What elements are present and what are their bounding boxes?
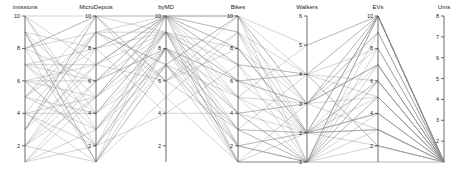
tick-label: 2 <box>17 143 20 149</box>
parallel-coordinates-chart: ímissions246810MicroDepots246810byMD2468… <box>0 0 467 173</box>
tick-label: 10 <box>367 13 373 19</box>
tick-label: 4 <box>299 71 302 77</box>
data-line <box>25 97 444 162</box>
tick-label: 2 <box>299 130 302 136</box>
tick-label: 2 <box>88 143 91 149</box>
tick-label: 3 <box>436 117 439 123</box>
tick-label: 6 <box>17 78 20 84</box>
tick-label: 6 <box>436 55 439 61</box>
axis-label: Walkers <box>296 4 317 10</box>
tick-label: 4 <box>88 110 91 116</box>
axis-label: byMD <box>158 4 174 10</box>
axis-label: ímissions <box>12 4 37 10</box>
axis-bikes[interactable]: Bikes246810 <box>227 4 245 162</box>
tick-label: 8 <box>436 13 439 19</box>
tick-label: 4 <box>17 110 20 116</box>
tick-label: 10 <box>85 13 91 19</box>
tick-label: 8 <box>88 45 91 51</box>
tick-label: 4 <box>370 110 373 116</box>
tick-label: 1 <box>299 159 302 165</box>
axis-ums[interactable]: Ums2345678 <box>436 4 450 162</box>
tick-label: 8 <box>370 45 373 51</box>
tick-label: 3 <box>299 101 302 107</box>
tick-label: 4 <box>436 96 439 102</box>
data-lines <box>25 16 444 162</box>
tick-label: 6 <box>370 78 373 84</box>
tick-label: 10 <box>155 13 161 19</box>
tick-label: 10 <box>14 13 20 19</box>
axis-label: Bikes <box>231 4 246 10</box>
tick-label: 6 <box>88 78 91 84</box>
axes: ímissions246810MicroDepots246810byMD2468… <box>12 4 450 165</box>
tick-label: 8 <box>230 45 233 51</box>
tick-label: 6 <box>299 13 302 19</box>
tick-label: 8 <box>158 45 161 51</box>
tick-label: 4 <box>230 110 233 116</box>
tick-label: 2 <box>230 143 233 149</box>
axis-walkers[interactable]: Walkers123456 <box>296 4 317 165</box>
tick-label: 6 <box>158 78 161 84</box>
axis-label: Ums <box>438 4 450 10</box>
tick-label: 2 <box>436 138 439 144</box>
tick-label: 4 <box>158 110 161 116</box>
tick-label: 6 <box>230 78 233 84</box>
tick-label: 7 <box>436 34 439 40</box>
tick-label: 8 <box>17 45 20 51</box>
axis-label: MicroDepots <box>79 4 113 10</box>
tick-label: 10 <box>227 13 233 19</box>
axis-label: EVs <box>372 4 383 10</box>
tick-label: 2 <box>370 143 373 149</box>
tick-label: 5 <box>299 42 302 48</box>
tick-label: 2 <box>158 143 161 149</box>
tick-label: 5 <box>436 76 439 82</box>
